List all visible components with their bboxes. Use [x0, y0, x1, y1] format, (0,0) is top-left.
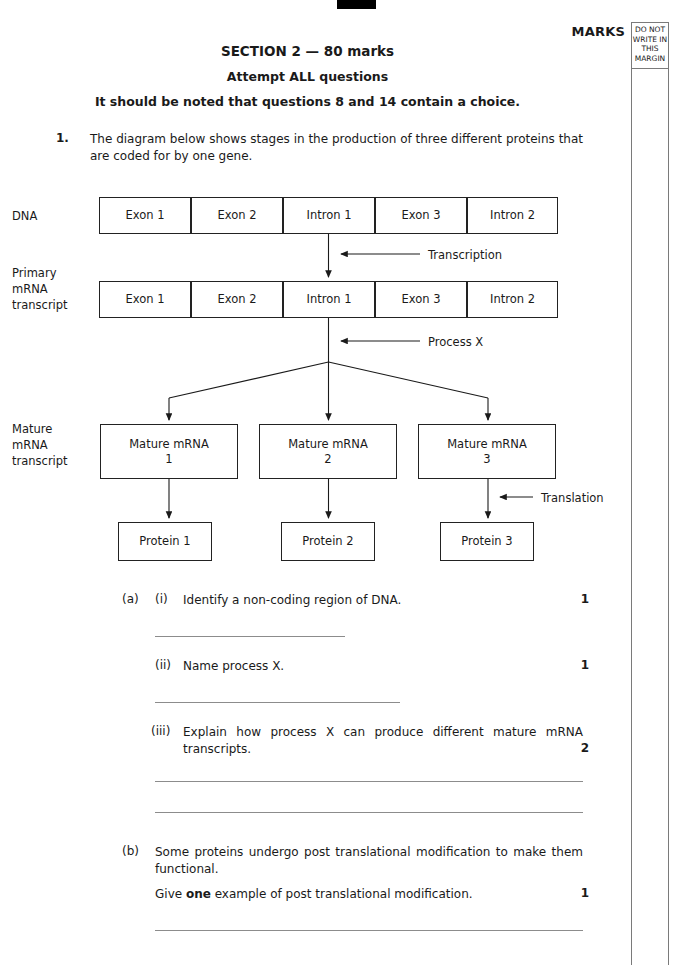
part-a-i-marks: 1: [570, 592, 600, 606]
mature-mrna-box-3-index: 3: [483, 452, 490, 467]
do-not-write-margin-note: DO NOT WRITE IN THIS MARGIN: [632, 25, 668, 63]
margin-rule-top: [631, 22, 669, 23]
mature-mrna-box-2-title: Mature mRNA: [288, 437, 368, 452]
arrow-label-transcription: Transcription: [428, 248, 502, 262]
fork-diagonal-right: [329, 362, 489, 398]
primary-segment-exon1: Exon 1: [99, 281, 191, 318]
protein-box-1: Protein 1: [118, 522, 212, 561]
mature-mrna-box-1-index: 1: [165, 452, 172, 467]
part-a-iii-marks: 2: [570, 741, 600, 755]
registration-mark: [337, 0, 376, 9]
mature-mrna-box-1-title: Mature mRNA: [129, 437, 209, 452]
primary-segment-intron2: Intron 2: [467, 281, 558, 318]
row-label-dna: DNA: [12, 208, 37, 224]
primary-segment-exon3: Exon 3: [375, 281, 467, 318]
exam-page: MARKS DO NOT WRITE IN THIS MARGIN SECTIO…: [0, 0, 678, 965]
fork-diagonal-left: [169, 362, 329, 398]
mature-mrna-box-2-index: 2: [324, 452, 331, 467]
mature-mrna-box-3-title: Mature mRNA: [447, 437, 527, 452]
mature-mrna-box-2: Mature mRNA 2: [259, 424, 397, 479]
marks-column-header: MARKS: [570, 24, 625, 39]
part-b-text-2: Give one example of post translational m…: [155, 886, 583, 903]
question-stem: The diagram below shows stages in the pr…: [90, 131, 583, 165]
answer-line-a-iii-1[interactable]: [155, 781, 583, 782]
margin-rule-mid: [631, 68, 669, 69]
protein-box-3: Protein 3: [440, 522, 534, 561]
part-a-label: (a): [122, 592, 139, 606]
dna-segment-intron2: Intron 2: [467, 197, 558, 234]
row-label-primary-line3: transcript: [12, 297, 68, 313]
part-b-text-1: Some proteins undergo post translational…: [155, 844, 583, 878]
section-title: SECTION 2 — 80 marks: [0, 43, 615, 59]
part-b-marks: 1: [570, 886, 600, 900]
row-label-mature-line3: transcript: [12, 453, 68, 469]
primary-segment-exon2: Exon 2: [191, 281, 283, 318]
part-a-ii-text: Name process X.: [183, 658, 583, 675]
part-b-text-2-post: example of post translational modificati…: [211, 887, 473, 901]
part-a-i-label: (i): [155, 592, 168, 606]
dna-segment-exon3: Exon 3: [375, 197, 467, 234]
attempt-all-questions: Attempt ALL questions: [0, 69, 615, 84]
question-number: 1.: [56, 131, 69, 145]
mature-mrna-box-1: Mature mRNA 1: [100, 424, 238, 479]
part-a-ii-marks: 1: [570, 658, 600, 672]
margin-rule-inner: [631, 22, 632, 965]
dna-segment-exon1: Exon 1: [99, 197, 191, 234]
mature-mrna-box-3: Mature mRNA 3: [418, 424, 556, 479]
row-label-mature-line1: Mature: [12, 421, 52, 437]
answer-line-b-1[interactable]: [155, 930, 583, 931]
part-a-i-text: Identify a non-coding region of DNA.: [183, 592, 583, 609]
part-a-ii-label: (ii): [155, 658, 171, 672]
protein-box-2: Protein 2: [281, 522, 375, 561]
part-b-label: (b): [122, 844, 139, 858]
margin-note-text: DO NOT WRITE IN THIS MARGIN: [633, 25, 667, 63]
part-a-iii-label: (iii): [151, 724, 170, 738]
answer-line-a-ii-1[interactable]: [155, 702, 400, 703]
arrow-label-translation: Translation: [541, 491, 604, 505]
part-b-text-2-pre: Give: [155, 887, 186, 901]
row-label-primary-line1: Primary: [12, 265, 56, 281]
choice-note: It should be noted that questions 8 and …: [0, 94, 615, 109]
part-b-text-2-emphasis: one: [186, 887, 211, 901]
row-label-primary-line2: mRNA: [12, 281, 48, 297]
dna-segment-intron1: Intron 1: [283, 197, 375, 234]
primary-segment-intron1: Intron 1: [283, 281, 375, 318]
answer-line-a-i-1[interactable]: [155, 636, 345, 637]
dna-segment-exon2: Exon 2: [191, 197, 283, 234]
row-label-mature-line2: mRNA: [12, 437, 48, 453]
arrow-label-process-x: Process X: [428, 335, 483, 349]
answer-line-a-iii-2[interactable]: [155, 812, 583, 813]
part-a-iii-text: Explain how process X can produce differ…: [183, 724, 583, 758]
margin-rule-outer: [668, 22, 669, 965]
